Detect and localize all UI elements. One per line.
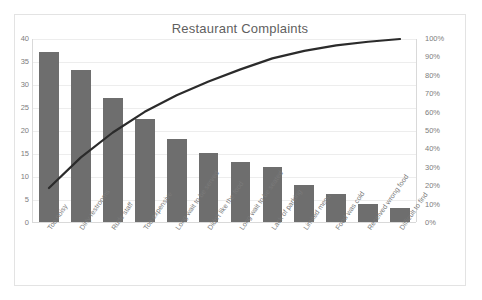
y-tick-label-right: 0% [425,219,436,227]
bar[interactable] [135,119,155,223]
x-label-slot: Difficult to find [384,225,416,287]
y-tick-label-right: 100% [425,35,444,43]
y-tick-label-right: 50% [425,127,440,135]
y-tick-label-left: 15 [21,150,29,158]
y-tick-label-left: 10 [21,173,29,181]
chart-container: Restaurant Complaints 0510152025303540 0… [14,14,466,286]
y-tick-label-right: 70% [425,90,440,98]
y-tick-label-right: 30% [425,164,440,172]
bar[interactable] [167,139,187,222]
x-label-slot: Long wait to be served [160,225,192,287]
x-label-slot: Too expensive [128,225,160,287]
x-label-slot: Didn't like the food [192,225,224,287]
y-tick-label-left: 35 [21,58,29,66]
y-tick-label-right: 60% [425,109,440,117]
y-tick-label-right: 10% [425,201,440,209]
x-label-slot: Rude staff [96,225,128,287]
y-tick-label-left: 40 [21,35,29,43]
x-label-slot: Limited menu [288,225,320,287]
x-label-slot: Food was cold [320,225,352,287]
bar[interactable] [71,70,91,222]
bar[interactable] [39,52,59,222]
x-label-slot: Dirty restrooms [64,225,96,287]
y-tick-label-left: 25 [21,104,29,112]
bar-slot [33,39,65,222]
x-label-slot: Lack of parking [256,225,288,287]
y-tick-label-left: 5 [25,196,29,204]
x-axis-labels: Too noisyDirty restroomsRude staffToo ex… [32,225,416,287]
y-tick-label-left: 20 [21,127,29,135]
y-tick-label-left: 0 [25,219,29,227]
bar-slot [65,39,97,222]
x-label-slot: Received wrong food [352,225,384,287]
bar-slot [129,39,161,222]
y-tick-label-right: 20% [425,182,440,190]
x-label-slot: Too noisy [32,225,64,287]
y-tick-label-right: 40% [425,145,440,153]
right-axis-line [416,39,417,222]
chart-title: Restaurant Complaints [15,21,465,36]
y-tick-label-right: 80% [425,72,440,80]
x-label-slot: Long wait to be seated [224,225,256,287]
y-tick-label-left: 30 [21,81,29,89]
bar[interactable] [103,98,123,222]
y-tick-label-right: 90% [425,53,440,61]
